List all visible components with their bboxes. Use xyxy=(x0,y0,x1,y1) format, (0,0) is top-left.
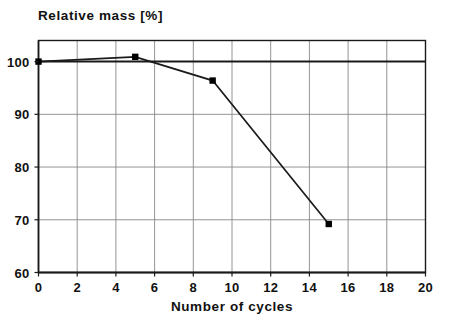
x-tick-label: 14 xyxy=(302,280,317,295)
x-tick-label: 4 xyxy=(112,280,120,295)
y-tick-label: 80 xyxy=(0,160,30,175)
x-tick-label: 18 xyxy=(379,280,394,295)
x-tick-label: 16 xyxy=(341,280,356,295)
chart-figure: Relative mass [%] 60708090100 0246810121… xyxy=(0,0,451,331)
x-tick-label: 12 xyxy=(263,280,278,295)
x-axis-title: Number of cycles xyxy=(38,299,426,314)
y-tick-label: 60 xyxy=(0,265,30,280)
data-point-marker xyxy=(132,54,138,60)
x-tick-label: 10 xyxy=(224,280,239,295)
x-tick-label: 2 xyxy=(73,280,81,295)
x-tick-label: 20 xyxy=(418,280,433,295)
x-tick-label: 0 xyxy=(35,280,43,295)
data-point-marker xyxy=(326,221,332,227)
x-tick-label: 8 xyxy=(190,280,198,295)
y-tick-label: 90 xyxy=(0,107,30,122)
data-point-marker xyxy=(209,77,215,83)
x-tick-label: 6 xyxy=(151,280,159,295)
y-tick-label: 70 xyxy=(0,212,30,227)
y-tick-label: 100 xyxy=(0,54,30,69)
